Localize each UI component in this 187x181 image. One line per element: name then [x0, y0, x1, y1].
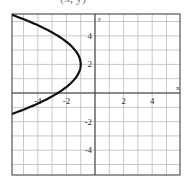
x-tick-label: 2 [121, 96, 126, 106]
y-tick-label: 4 [88, 31, 93, 41]
x-tick-label: 4 [150, 96, 155, 106]
y-tick-label: 2 [88, 59, 93, 69]
x-tick-label: -2 [63, 96, 71, 106]
y-tick-label: -2 [85, 117, 93, 127]
x-axis-label: x [176, 84, 180, 92]
coordinate-plane: xy-4-22442-2-4 [0, 0, 187, 181]
y-tick-label: -4 [85, 145, 93, 155]
plot-border [12, 14, 180, 175]
